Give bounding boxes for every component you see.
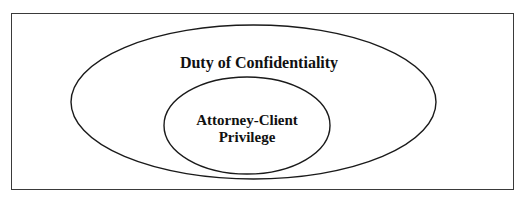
inner-set-label-line2: Privilege	[167, 129, 327, 146]
outer-set-label: Duty of Confidentiality	[153, 55, 365, 71]
inner-set-label-line1: Attorney-Client	[167, 112, 327, 129]
outer-ellipse-duty-of-confidentiality	[71, 25, 436, 179]
venn-diagram	[0, 0, 525, 201]
inner-set-label: Attorney-Client Privilege	[167, 112, 327, 146]
